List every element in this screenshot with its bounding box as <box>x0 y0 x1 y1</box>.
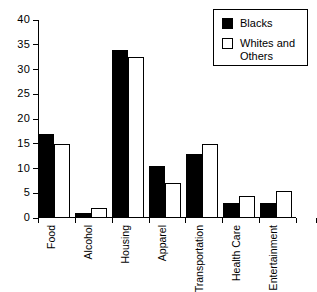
y-tick-mark <box>33 168 38 169</box>
y-tick-mark <box>33 94 38 95</box>
y-tick-label: 20 <box>17 111 30 126</box>
x-tick-label-text: Food <box>46 225 57 249</box>
bar-group <box>112 20 144 218</box>
x-tick-label-text: Transportation <box>194 225 205 292</box>
bar <box>38 134 54 218</box>
y-tick-label: 15 <box>17 136 30 151</box>
bar <box>276 191 292 218</box>
white-square-swatch-icon <box>222 38 233 49</box>
bar <box>75 213 91 218</box>
legend-label-blacks: Blacks <box>240 17 272 30</box>
x-tick-mark <box>222 218 223 223</box>
bar <box>54 144 70 218</box>
y-tick-label: 10 <box>17 161 30 176</box>
y-tick-label: 35 <box>17 37 30 52</box>
bar <box>128 57 144 218</box>
bar <box>149 166 165 218</box>
y-tick-label: 0 <box>24 210 30 225</box>
y-tick-label: 5 <box>24 185 30 200</box>
bar <box>91 208 107 218</box>
y-tick-mark <box>33 20 38 21</box>
y-tick-mark <box>33 119 38 120</box>
x-tick-mark <box>296 218 297 223</box>
x-tick-mark <box>149 218 150 223</box>
x-tick-label-text: Health Care <box>231 225 242 281</box>
bar <box>223 203 239 218</box>
bar <box>202 144 218 218</box>
x-tick-label-text: Apparel <box>157 225 168 261</box>
x-tick-label-text: Entertainment <box>268 225 279 290</box>
bar-group <box>149 20 181 218</box>
x-tick-label-text: Housing <box>120 225 131 264</box>
legend-label-whites-and-others: Whites and Others <box>240 37 302 63</box>
chart-legend: Blacks Whites and Others <box>213 9 308 66</box>
y-tick-label: 25 <box>17 86 30 101</box>
y-tick-mark <box>33 44 38 45</box>
y-tick-mark <box>33 69 38 70</box>
x-tick-mark <box>316 218 317 223</box>
y-tick-mark <box>33 193 38 194</box>
legend-item-whites-and-others: Whites and Others <box>222 37 302 63</box>
x-tick-mark <box>75 218 76 223</box>
legend-item-blacks: Blacks <box>222 17 272 30</box>
x-tick-label-text: Alcohol <box>83 225 94 259</box>
y-tick-label: 40 <box>17 12 30 27</box>
bar <box>186 154 202 218</box>
x-tick-mark <box>185 218 186 223</box>
bar-group <box>75 20 107 218</box>
y-tick-mark <box>33 143 38 144</box>
bar-group <box>38 20 70 218</box>
bar <box>165 183 181 218</box>
x-tick-mark <box>259 218 260 223</box>
bar <box>260 203 276 218</box>
black-square-swatch-icon <box>222 18 233 29</box>
bar <box>239 196 255 218</box>
y-tick-label: 30 <box>17 62 30 77</box>
x-tick-mark <box>38 218 39 223</box>
x-tick-mark <box>112 218 113 223</box>
bar <box>112 50 128 218</box>
